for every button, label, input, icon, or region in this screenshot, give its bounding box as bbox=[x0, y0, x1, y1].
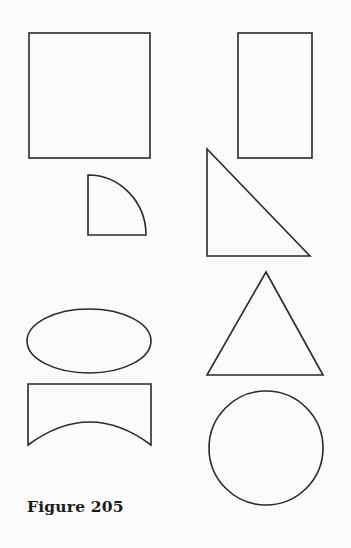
circle-shape bbox=[209, 391, 323, 505]
figure-canvas bbox=[0, 0, 351, 548]
square-shape bbox=[29, 33, 150, 158]
equilateral-triangle-shape bbox=[207, 272, 323, 375]
ellipse-shape bbox=[27, 309, 151, 373]
rectangle-shape bbox=[238, 33, 312, 158]
right-triangle-shape bbox=[207, 149, 310, 256]
quarter-circle-shape bbox=[88, 175, 146, 235]
concave-arc-shape bbox=[28, 384, 151, 445]
figure-caption: Figure 205 bbox=[27, 497, 124, 516]
